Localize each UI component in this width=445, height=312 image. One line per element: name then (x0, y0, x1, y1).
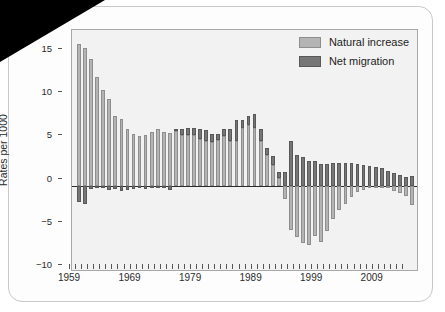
x-axis-tick-mark (178, 264, 179, 269)
x-axis-tick-label: 1959 (58, 272, 80, 283)
bar-net-migration (344, 163, 348, 185)
x-axis-tick-mark (396, 264, 397, 269)
bar-net-migration (325, 164, 329, 186)
x-axis-tick-mark (372, 264, 373, 269)
x-axis-tick-mark (166, 264, 167, 269)
bar-net-migration (83, 186, 87, 204)
bar-net-migration (150, 186, 154, 189)
x-axis-tick-mark (402, 264, 403, 269)
x-axis-tick-mark (335, 264, 336, 269)
y-axis-tick-mark (58, 178, 62, 179)
bar-natural-increase (283, 186, 287, 199)
bar-natural-increase (162, 132, 166, 186)
bar-natural-increase (174, 131, 178, 185)
x-axis-tick-mark (275, 264, 276, 269)
x-axis-tick-mark (214, 264, 215, 269)
bar-natural-increase (210, 142, 214, 185)
legend-item-net-migration: Net migration (299, 55, 409, 67)
bar-net-migration (113, 186, 117, 189)
bar-net-migration (126, 186, 130, 190)
legend-swatch-natural-increase (299, 37, 321, 48)
x-axis-tick-mark (251, 264, 252, 269)
bar-natural-increase (259, 141, 263, 186)
y-axis-title: Rates per 1000 (0, 114, 9, 186)
x-axis-tick-mark (384, 264, 385, 269)
x-axis-tick-label: 1979 (179, 272, 201, 283)
x-axis-tick-mark (323, 264, 324, 269)
bar-natural-increase (380, 186, 384, 188)
x-axis-tick-mark (257, 264, 258, 269)
bar-net-migration (168, 186, 172, 190)
x-axis-tick-mark (341, 264, 342, 269)
bar-natural-increase (150, 132, 154, 186)
bar-net-migration (398, 175, 402, 185)
bar-net-migration (265, 148, 269, 156)
bar-natural-increase (271, 165, 275, 186)
bar-natural-increase (216, 140, 220, 186)
x-axis-tick-mark (142, 264, 143, 269)
bar-net-migration (319, 164, 323, 186)
bar-natural-increase (132, 134, 136, 186)
bar-natural-increase (319, 186, 323, 242)
bar-net-migration (301, 157, 305, 186)
y-axis-tick-label: −10 (36, 259, 52, 270)
bar-net-migration (374, 167, 378, 185)
bar-net-migration (198, 129, 202, 139)
bar-net-migration (259, 129, 263, 141)
bar-natural-increase (344, 186, 348, 204)
y-axis-tick-mark (58, 134, 62, 135)
bar-natural-increase (83, 48, 87, 185)
bar-net-migration (132, 186, 136, 189)
bar-net-migration (337, 163, 341, 185)
bar-net-migration (77, 186, 81, 202)
x-axis-tick-mark (148, 264, 149, 269)
bar-net-migration (186, 128, 190, 135)
bar-natural-increase (325, 186, 329, 231)
x-axis-tick-mark (220, 264, 221, 269)
bar-net-migration (144, 186, 148, 189)
x-axis-tick-mark (154, 264, 155, 269)
bar-net-migration (313, 161, 317, 185)
chart-card: Natural increase Net migration Rates per… (8, 6, 433, 302)
x-axis-tick-mark (305, 264, 306, 269)
bar-net-migration (210, 134, 214, 143)
x-axis-tick-mark (93, 264, 94, 269)
x-axis-tick-mark (239, 264, 240, 269)
bar-net-migration (174, 129, 178, 132)
bar-natural-increase (222, 136, 226, 185)
bar-natural-increase (374, 186, 378, 188)
y-axis-tick-mark (58, 48, 62, 49)
bar-natural-increase (144, 135, 148, 186)
bar-natural-increase (295, 186, 299, 238)
x-axis-tick-mark (69, 264, 70, 269)
x-axis-tick-mark (390, 264, 391, 269)
y-axis-tick-label: 5 (47, 129, 52, 140)
legend-item-natural-increase: Natural increase (299, 36, 409, 48)
y-axis-tick-label: −5 (41, 215, 52, 226)
y-axis-tick-mark (58, 91, 62, 92)
screenshot-root: Natural increase Net migration Rates per… (0, 0, 445, 312)
bar-net-migration (216, 134, 220, 140)
bar-net-migration (180, 129, 184, 135)
bar-natural-increase (101, 90, 105, 186)
bar-net-migration (228, 129, 232, 141)
x-axis-tick-label: 1999 (300, 272, 322, 283)
bar-net-migration (277, 172, 281, 178)
x-axis-tick-mark (111, 264, 112, 269)
x-axis-tick-label: 1969 (118, 272, 140, 283)
bar-natural-increase (204, 141, 208, 186)
bar-natural-increase (313, 186, 317, 236)
bar-natural-increase (277, 178, 281, 186)
bar-net-migration (368, 166, 372, 186)
bar-natural-increase (265, 155, 269, 185)
bar-natural-increase (307, 186, 311, 246)
x-axis-tick-mark (196, 264, 197, 269)
x-axis-tick-mark (311, 264, 312, 269)
bar-net-migration (392, 173, 396, 185)
bar-net-migration (162, 186, 166, 189)
bar-natural-increase (253, 128, 257, 186)
x-axis-tick-mark (287, 264, 288, 269)
x-axis-tick-mark (263, 264, 264, 269)
x-axis-tick-mark (105, 264, 106, 269)
bar-net-migration (253, 114, 257, 128)
